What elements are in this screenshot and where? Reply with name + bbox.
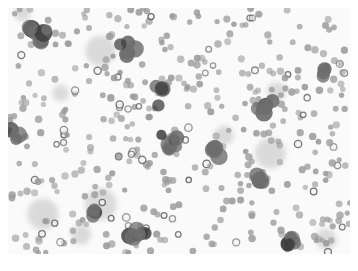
microscopy-image — [0, 0, 358, 271]
cells-canvas — [8, 8, 350, 254]
blood-smear-field — [8, 8, 350, 254]
